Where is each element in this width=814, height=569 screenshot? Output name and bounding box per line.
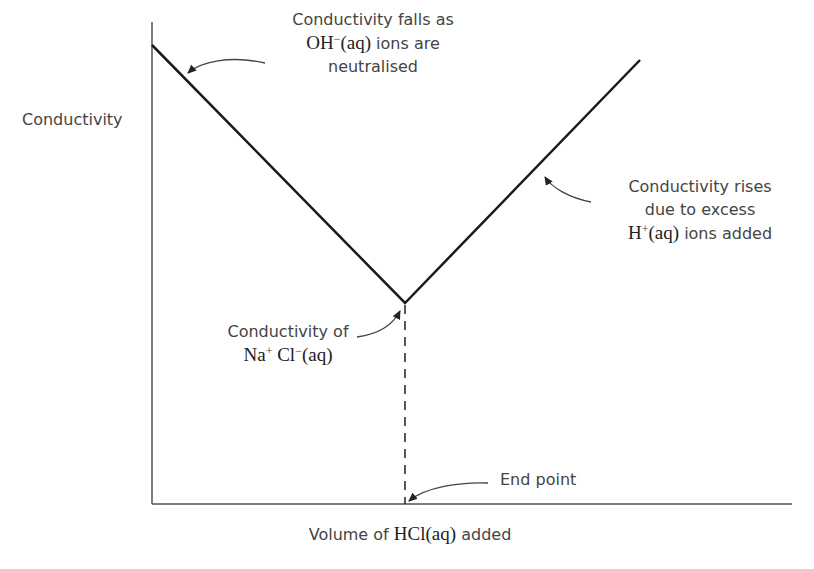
falls-line2: OH−(aq) ions are: [268, 31, 478, 55]
y-axis-label: Conductivity: [22, 108, 123, 131]
falls-annotation: Conductivity falls as OH−(aq) ions are n…: [268, 8, 478, 78]
falls-arrow-icon: [188, 60, 265, 73]
endpoint-label: End point: [500, 468, 576, 491]
falls-line1: Conductivity falls as: [268, 8, 478, 31]
min-line2: Na+ Cl−(aq): [218, 343, 358, 367]
min-annotation: Conductivity of Na+ Cl−(aq): [218, 320, 358, 367]
rises-annotation: Conductivity rises due to excess H+(aq) …: [600, 175, 800, 245]
conductivity-graph: [0, 0, 814, 569]
min-line1: Conductivity of: [218, 320, 358, 343]
rises-arrow-icon: [545, 177, 591, 202]
x-axis-label: Volume of HCl(aq) added: [280, 522, 540, 546]
rises-line2: due to excess: [600, 198, 800, 221]
endpoint-arrow-icon: [409, 483, 488, 501]
falls-line3: neutralised: [268, 55, 478, 78]
rises-line1: Conductivity rises: [600, 175, 800, 198]
min-arrow-icon: [357, 311, 400, 337]
conductivity-curve: [152, 45, 640, 303]
rises-line3: H+(aq) ions added: [600, 221, 800, 245]
